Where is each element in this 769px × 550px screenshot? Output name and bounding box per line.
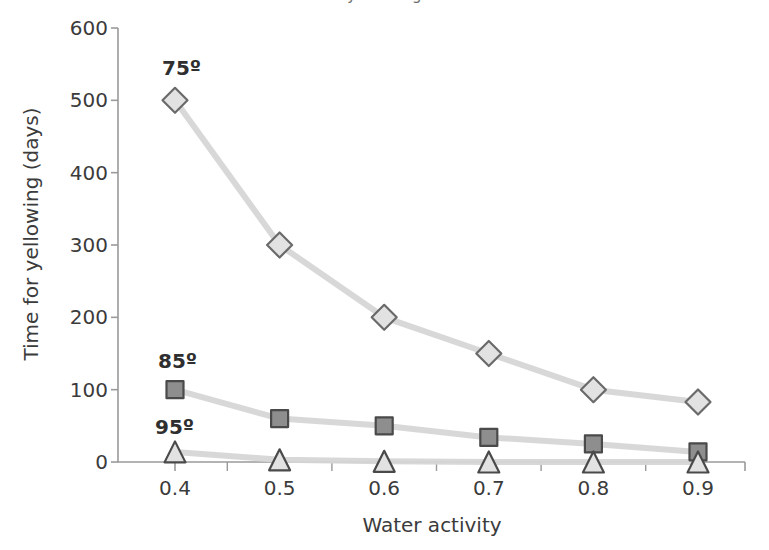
chart-figure: yellowing 0100200300400500600 0.40.50.60… (0, 0, 769, 550)
x-tick-label: 0.9 (663, 478, 733, 498)
x-tick-label: 0.7 (454, 478, 524, 498)
series-annotation-75: 75º (162, 58, 201, 78)
x-axis-title: Water activity (118, 513, 746, 537)
series-annotation-85: 85º (158, 351, 197, 371)
x-tick-label: 0.8 (558, 478, 628, 498)
x-tick-label: 0.4 (140, 478, 210, 498)
x-tick-label: 0.6 (349, 478, 419, 498)
series-annotation-95: 95º (155, 417, 194, 437)
x-tick-label: 0.5 (245, 478, 315, 498)
x-axis-tick-labels: 0.40.50.60.70.80.9 (0, 0, 769, 550)
y-axis-title: Time for yellowing (days) (19, 69, 43, 399)
